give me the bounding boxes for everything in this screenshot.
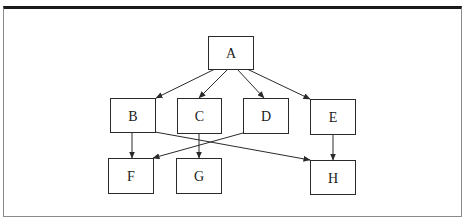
- edge-a-to-d: [237, 69, 264, 98]
- node-c: C: [178, 99, 222, 134]
- node-label: F: [127, 169, 135, 184]
- node-b: B: [111, 99, 156, 133]
- node-label: H: [328, 171, 338, 186]
- edge-a-to-c: [199, 69, 228, 98]
- node-h: H: [311, 161, 356, 195]
- node-label: E: [329, 110, 338, 125]
- node-e: E: [311, 100, 356, 135]
- node-label: C: [195, 109, 204, 124]
- node-f: F: [109, 159, 154, 194]
- diagram-canvas: ABCDEFGH: [0, 0, 467, 221]
- node-d: D: [244, 99, 289, 134]
- node-label: B: [128, 109, 137, 124]
- edge-a-to-e: [247, 69, 310, 99]
- node-a: A: [209, 37, 254, 70]
- node-label: A: [226, 46, 237, 61]
- node-label: D: [261, 109, 271, 124]
- edge-a-to-b: [156, 69, 215, 98]
- node-g: G: [177, 159, 222, 194]
- node-label: G: [194, 169, 204, 184]
